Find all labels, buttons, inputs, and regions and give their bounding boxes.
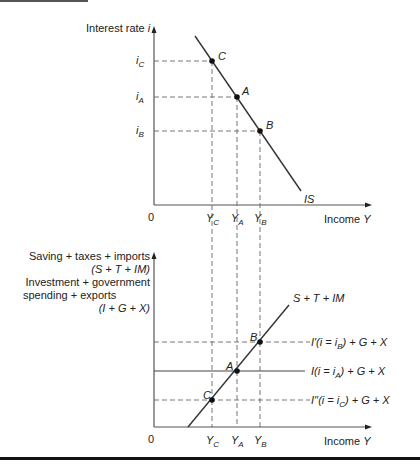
point-c (209, 58, 215, 64)
bottom-y-axis-label-line-4: spending + exports (23, 289, 116, 301)
bottom-label-point-b: B (250, 331, 257, 343)
bottom-y-axis-arrow-icon (152, 252, 157, 259)
tick-y-a: YA (231, 212, 244, 226)
stim-curve (188, 305, 289, 427)
tick-i-c: iC (136, 54, 144, 68)
bottom-label-point-c: C (203, 389, 211, 401)
tick-y-b: YB (254, 212, 267, 226)
label-point-c: C (218, 50, 226, 62)
investment-label-ib: I′(i = iB) + G + X (311, 336, 387, 350)
bottom-tick-y-b: YB (254, 434, 267, 448)
top-origin-label: 0 (148, 211, 154, 223)
is-curve-label: IS (304, 193, 314, 205)
point-b (257, 339, 263, 345)
investment-label-ic: I′′(i = iC) + G + X (311, 394, 390, 408)
bottom-tick-y-a: YA (231, 434, 244, 448)
bottom-x-axis-label: Income Y (324, 435, 370, 447)
bottom-x-axis-arrow-icon (365, 425, 372, 430)
stim-curve-label: S + T + IM (293, 292, 344, 304)
point-a (234, 368, 240, 374)
point-a (234, 94, 240, 100)
label-point-a: A (242, 85, 249, 97)
tick-y-c: YC (206, 212, 219, 226)
top-x-axis-label: Income Y (324, 213, 370, 225)
top-y-axis-arrow-icon (152, 26, 157, 33)
bottom-y-axis-label-line-5: (I + G + X) (10, 302, 150, 314)
bottom-y-axis-label-line-1: Saving + taxes + imports (10, 250, 150, 262)
footer-rule (0, 457, 420, 460)
bottom-origin-label: 0 (148, 433, 154, 445)
bottom-y-axis-label-line-3: Investment + government (10, 276, 150, 288)
tick-i-a: iA (136, 90, 144, 104)
bottom-y-axis-label-line-2: (S + T + IM) (10, 263, 150, 275)
top-x-axis-arrow-icon (365, 203, 372, 208)
label-point-b: B (266, 119, 273, 131)
investment-label-ia: I(i = iA) + G + X (311, 365, 385, 379)
bottom-label-point-a: A (226, 360, 233, 372)
tick-i-b: iB (136, 124, 144, 138)
top-y-axis-label: Interest rate i (86, 22, 150, 34)
bottom-tick-y-c: YC (206, 434, 219, 448)
header-rule (0, 0, 88, 2)
point-b (257, 128, 263, 134)
